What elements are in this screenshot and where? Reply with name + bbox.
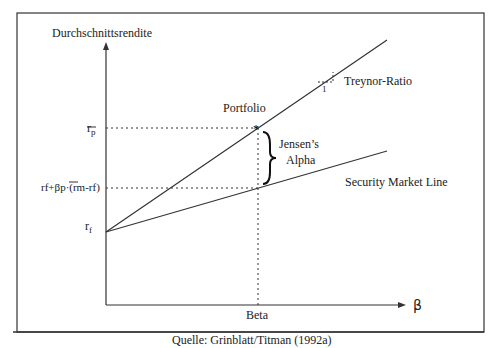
expected-return-label: rf+βp·(rm-rf) xyxy=(41,181,100,193)
treynor-unit: 1 xyxy=(322,84,327,94)
x-axis-label: β xyxy=(413,297,422,313)
portfolio-line xyxy=(106,40,387,232)
frame xyxy=(17,13,484,332)
diagram-canvas: * Durchschnittsrendite β Beta Portfolio … xyxy=(0,0,496,348)
treynor-label: Treynor-Ratio xyxy=(344,74,412,89)
portfolio-point-icon: * xyxy=(253,122,259,136)
x-axis-arrow-icon xyxy=(398,302,406,308)
jensen-brace-icon xyxy=(263,132,276,184)
y-axis-label: Durchschnittsrendite xyxy=(52,26,152,41)
beta-tick-label: Beta xyxy=(246,308,268,323)
y-axis-arrow-icon xyxy=(103,42,109,50)
security-market-line xyxy=(106,151,387,232)
jensen-label-2: Alpha xyxy=(286,153,315,168)
portfolio-label: Portfolio xyxy=(223,101,266,116)
diagram-graphics: * xyxy=(0,0,496,348)
rf-label: rf xyxy=(85,219,92,235)
source-caption: Quelle: Grinblatt/Titman (1992a) xyxy=(172,333,332,348)
jensen-label-1: Jensen’s xyxy=(279,137,319,152)
sml-label: Security Market Line xyxy=(345,175,448,190)
rp-label: rp xyxy=(87,121,96,137)
treynor-triangle xyxy=(318,72,333,82)
